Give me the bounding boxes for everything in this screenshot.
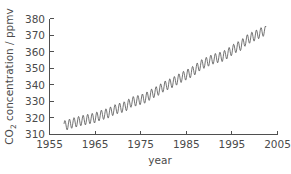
y-axis-title-suffix: concentration / ppmv <box>3 8 15 124</box>
x-axis-title: year <box>148 154 172 166</box>
x-tick-label: 1955 <box>36 138 63 150</box>
x-tick-labels: 1955 1965 1975 1985 1995 2005 <box>36 138 291 150</box>
y-axis-title: CO2 concentration / ppmv <box>3 8 18 144</box>
co2-keeling-curve-figure: 310 320 330 340 350 360 370 380 1955 196… <box>0 0 291 174</box>
y-tick-label: 360 <box>25 46 45 58</box>
y-tick-label: 350 <box>25 62 45 74</box>
co2-data-line <box>64 26 266 130</box>
x-tick-label: 1975 <box>127 138 154 150</box>
x-tick-label: 1965 <box>82 138 109 150</box>
chart-canvas: 310 320 330 340 350 360 370 380 1955 196… <box>0 0 291 174</box>
y-tick-label: 380 <box>25 13 45 25</box>
y-tick-label: 330 <box>25 95 45 107</box>
x-tick-label: 2005 <box>264 138 291 150</box>
x-tick-label: 1985 <box>173 138 200 150</box>
y-tick-marks <box>50 19 54 135</box>
x-tick-marks <box>50 131 278 135</box>
x-tick-label: 1995 <box>219 138 246 150</box>
svg-text:CO2 concentration / ppmv: CO2 concentration / ppmv <box>3 8 18 144</box>
y-tick-label: 320 <box>25 112 45 124</box>
y-tick-labels: 310 320 330 340 350 360 370 380 <box>25 13 45 141</box>
y-tick-label: 340 <box>25 79 45 91</box>
y-tick-label: 370 <box>25 29 45 41</box>
y-axis-title-prefix: CO <box>3 129 15 145</box>
